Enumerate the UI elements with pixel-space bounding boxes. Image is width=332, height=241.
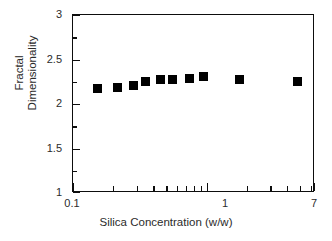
data-point bbox=[199, 72, 208, 81]
chart-figure: 3 2.5 2 1.5 1 0.1 1 7 bbox=[0, 0, 332, 241]
y-axis-title: Fractal Dimensionality bbox=[13, 3, 39, 143]
y-major-tick bbox=[73, 192, 80, 193]
x-major-tick bbox=[73, 183, 74, 191]
data-point bbox=[235, 75, 244, 84]
x-minor-tick bbox=[201, 186, 202, 191]
y-minor-tick bbox=[73, 171, 77, 172]
data-point bbox=[185, 74, 194, 83]
data-point bbox=[113, 83, 122, 92]
y-major-tick bbox=[73, 149, 80, 150]
y-major-tick bbox=[73, 104, 80, 105]
y-axis-title-line-1: Fractal bbox=[13, 3, 26, 143]
x-minor-tick bbox=[311, 186, 312, 191]
plot-area bbox=[72, 14, 314, 192]
x-minor-tick bbox=[247, 186, 248, 191]
x-minor-tick bbox=[194, 186, 195, 191]
x-minor-tick bbox=[153, 186, 154, 191]
x-minor-tick bbox=[166, 186, 167, 191]
data-point bbox=[93, 84, 102, 93]
data-point bbox=[293, 77, 302, 86]
x-major-tick bbox=[313, 183, 314, 191]
x-tick-label-1: 1 bbox=[205, 198, 245, 209]
x-major-tick bbox=[207, 183, 208, 191]
x-axis-title: Silica Concentration (w/w) bbox=[0, 216, 332, 228]
y-tick-label-1.5: 1.5 bbox=[22, 143, 62, 154]
y-major-tick bbox=[73, 60, 80, 61]
x-minor-tick bbox=[137, 186, 138, 191]
x-tick-label-7: 7 bbox=[294, 198, 332, 209]
y-tick-label-1: 1 bbox=[22, 187, 62, 198]
x-minor-tick bbox=[177, 186, 178, 191]
x-minor-tick bbox=[300, 186, 301, 191]
y-axis-title-line-2: Dimensionality bbox=[26, 3, 39, 143]
x-minor-tick bbox=[186, 186, 187, 191]
x-minor-tick bbox=[113, 186, 114, 191]
data-point bbox=[168, 75, 177, 84]
y-minor-tick bbox=[73, 82, 77, 83]
data-point bbox=[129, 81, 138, 90]
x-tick-label-0.1: 0.1 bbox=[52, 198, 92, 209]
y-minor-tick bbox=[73, 37, 77, 38]
y-major-tick bbox=[73, 15, 80, 16]
x-minor-tick bbox=[270, 186, 271, 191]
data-point bbox=[156, 75, 165, 84]
y-minor-tick bbox=[73, 126, 77, 127]
data-point bbox=[141, 77, 150, 86]
x-minor-tick bbox=[287, 186, 288, 191]
